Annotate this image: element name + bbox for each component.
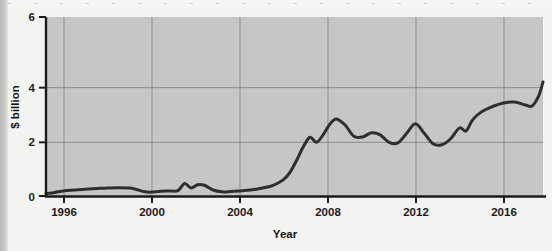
y-tick-label-4: 4: [29, 82, 36, 94]
x-tick-label-2012: 2012: [403, 206, 429, 218]
y-tick-label-2: 2: [29, 136, 35, 148]
x-tick-label-2016: 2016: [491, 206, 517, 218]
y-tick-label-6: 6: [29, 11, 35, 23]
x-tick-label-2008: 2008: [315, 206, 341, 218]
x-tick-label-2000: 2000: [139, 206, 165, 218]
figure-page: 6 4 2 0 1996 2000 2004 2008 2012 2016 Ye…: [0, 0, 552, 251]
line-chart-figure: 6 4 2 0 1996 2000 2004 2008 2012 2016 Ye…: [0, 0, 552, 251]
chart-canvas: 6 4 2 0 1996 2000 2004 2008 2012 2016 Ye…: [0, 0, 552, 251]
y-tick-label-0: 0: [29, 191, 35, 203]
x-tick-label-2004: 2004: [227, 206, 253, 218]
x-axis-title: Year: [273, 228, 298, 240]
x-tick-label-1996: 1996: [51, 206, 77, 218]
y-axis-title: $ billion: [9, 85, 21, 128]
plot-area-background: [46, 17, 543, 196]
